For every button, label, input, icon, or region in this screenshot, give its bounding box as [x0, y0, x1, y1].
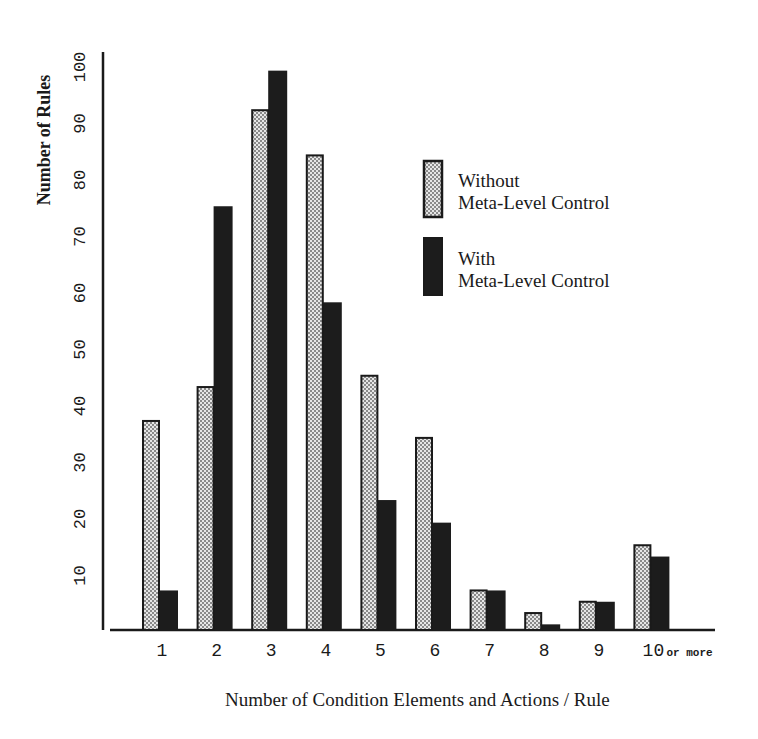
legend-label-line1: With — [458, 248, 609, 270]
bar-with-meta-level-control — [650, 557, 669, 630]
x-tick-labels: 12345678910or more — [157, 641, 713, 661]
bar-with-meta-level-control — [541, 624, 560, 630]
y-tick-label: 30 — [71, 452, 90, 472]
x-tick-label: 2 — [211, 641, 222, 661]
bar-with-meta-level-control — [596, 602, 615, 630]
bar-without-meta-level-control — [143, 421, 159, 630]
bar-without-meta-level-control — [307, 155, 323, 630]
legend-swatch-without — [424, 161, 442, 217]
legend-item-without: Without Meta-Level Control — [458, 170, 609, 214]
x-tick-label: 10 — [643, 641, 665, 661]
bar-with-meta-level-control — [214, 206, 233, 630]
x-tick-label: 6 — [430, 641, 441, 661]
bar-without-meta-level-control — [416, 438, 432, 630]
y-tick-label: 70 — [71, 226, 90, 246]
x-tick-label: 5 — [375, 641, 386, 661]
x-axis-title: Number of Condition Elements and Actions… — [225, 689, 610, 711]
y-tick-label: 20 — [71, 509, 90, 529]
x-tick-label: 4 — [320, 641, 331, 661]
y-tick-label: 60 — [71, 283, 90, 303]
y-axis-title: Number of Rules — [34, 75, 55, 206]
legend-swatches — [424, 161, 442, 295]
x-tick-label: 8 — [539, 641, 550, 661]
y-tick-label: 80 — [71, 170, 90, 190]
bar-chart: 102030405060708090100 12345678910or more — [0, 0, 758, 739]
legend-label-line2: Meta-Level Control — [458, 192, 609, 214]
bar-with-meta-level-control — [159, 590, 178, 630]
bar-without-meta-level-control — [361, 376, 377, 630]
bar-without-meta-level-control — [525, 613, 541, 630]
legend-swatch-with — [424, 238, 442, 295]
legend-item-with: With Meta-Level Control — [458, 248, 609, 292]
x-tick-label: 9 — [593, 641, 604, 661]
y-tick-label: 50 — [71, 339, 90, 359]
bar-without-meta-level-control — [580, 602, 596, 630]
bar-with-meta-level-control — [268, 71, 287, 630]
bar-with-meta-level-control — [323, 302, 342, 630]
x-tick-suffix: or more — [666, 647, 713, 659]
bar-with-meta-level-control — [377, 500, 396, 630]
y-tick-label: 40 — [71, 396, 90, 416]
bar-with-meta-level-control — [432, 523, 451, 630]
bars — [143, 71, 669, 630]
y-tick-labels: 102030405060708090100 — [71, 52, 90, 586]
bar-without-meta-level-control — [252, 110, 268, 630]
bar-without-meta-level-control — [471, 590, 487, 630]
bar-without-meta-level-control — [198, 387, 214, 630]
x-tick-label: 3 — [266, 641, 277, 661]
legend-label-line2: Meta-Level Control — [458, 270, 609, 292]
y-tick-label: 90 — [71, 113, 90, 133]
legend-label-line1: Without — [458, 170, 609, 192]
bar-without-meta-level-control — [634, 545, 650, 630]
bar-with-meta-level-control — [487, 590, 506, 630]
y-tick-label: 10 — [71, 565, 90, 585]
y-tick-label: 100 — [71, 52, 90, 83]
x-tick-label: 1 — [157, 641, 168, 661]
x-tick-label: 7 — [484, 641, 495, 661]
